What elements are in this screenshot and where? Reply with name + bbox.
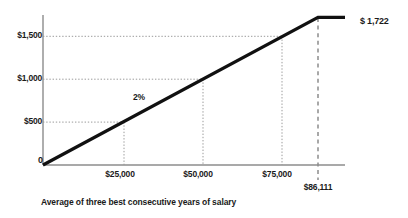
max-benefit-annotation: $ 1,722	[360, 17, 389, 26]
cap-salary-annotation: $86,111	[304, 183, 332, 192]
y-axis-tick-label-1500: $1,500	[17, 31, 42, 40]
slope-annotation: 2%	[133, 93, 145, 102]
benefit-line-series	[43, 17, 345, 165]
axis-origin-label: 0	[38, 156, 43, 165]
chart-caption: Average of three best consecutive years …	[41, 198, 236, 207]
y-axis-tick-label-500: $500	[24, 117, 42, 126]
x-axis-tick-label-25000: $25,000	[105, 170, 134, 179]
x-axis-tick-label-75000: $75,000	[262, 170, 291, 179]
salary-benefit-chart: $1,500 $1,000 $500 0 $25,000 $50,000 $75…	[0, 0, 408, 218]
y-axis-tick-label-1000: $1,000	[17, 74, 42, 83]
chart-plot-area	[0, 0, 408, 218]
x-axis-tick-label-50000: $50,000	[183, 170, 212, 179]
